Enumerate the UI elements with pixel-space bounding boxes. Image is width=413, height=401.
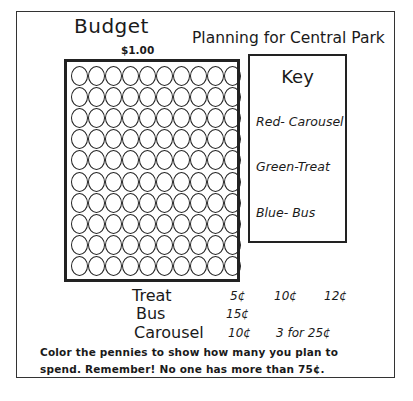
penny-circle[interactable] <box>71 235 88 255</box>
penny-circle[interactable] <box>207 87 224 107</box>
penny-circle[interactable] <box>190 129 207 149</box>
penny-circle[interactable] <box>88 256 105 276</box>
penny-circle[interactable] <box>139 193 156 213</box>
penny-circle[interactable] <box>224 108 241 128</box>
penny-circle[interactable] <box>105 256 122 276</box>
penny-circle[interactable] <box>224 235 241 255</box>
penny-circle[interactable] <box>207 129 224 149</box>
penny-circle[interactable] <box>156 129 173 149</box>
penny-circle[interactable] <box>207 150 224 170</box>
penny-circle[interactable] <box>122 193 139 213</box>
penny-circle[interactable] <box>156 150 173 170</box>
penny-circle[interactable] <box>71 129 88 149</box>
penny-circle[interactable] <box>139 108 156 128</box>
penny-circle[interactable] <box>207 108 224 128</box>
penny-circle[interactable] <box>122 150 139 170</box>
penny-circle[interactable] <box>156 172 173 192</box>
penny-circle[interactable] <box>88 129 105 149</box>
penny-circle[interactable] <box>173 256 190 276</box>
penny-circle[interactable] <box>105 193 122 213</box>
penny-circle[interactable] <box>190 66 207 86</box>
penny-circle[interactable] <box>156 235 173 255</box>
penny-circle[interactable] <box>156 256 173 276</box>
penny-circle[interactable] <box>139 66 156 86</box>
penny-circle[interactable] <box>190 256 207 276</box>
penny-circle[interactable] <box>71 193 88 213</box>
penny-circle[interactable] <box>122 256 139 276</box>
penny-circle[interactable] <box>156 66 173 86</box>
penny-circle[interactable] <box>71 108 88 128</box>
penny-circle[interactable] <box>190 150 207 170</box>
penny-circle[interactable] <box>122 235 139 255</box>
penny-circle[interactable] <box>88 172 105 192</box>
penny-circle[interactable] <box>122 129 139 149</box>
penny-circle[interactable] <box>190 235 207 255</box>
penny-circle[interactable] <box>224 172 241 192</box>
penny-circle[interactable] <box>105 108 122 128</box>
penny-circle[interactable] <box>122 66 139 86</box>
penny-circle[interactable] <box>207 235 224 255</box>
penny-circle[interactable] <box>71 172 88 192</box>
penny-circle[interactable] <box>156 87 173 107</box>
penny-circle[interactable] <box>173 87 190 107</box>
penny-circle[interactable] <box>71 256 88 276</box>
penny-circle[interactable] <box>88 235 105 255</box>
penny-circle[interactable] <box>122 214 139 234</box>
penny-circle[interactable] <box>122 87 139 107</box>
penny-circle[interactable] <box>71 87 88 107</box>
penny-circle[interactable] <box>207 66 224 86</box>
penny-circle[interactable] <box>156 193 173 213</box>
penny-circle[interactable] <box>190 193 207 213</box>
penny-circle[interactable] <box>88 66 105 86</box>
penny-circle[interactable] <box>173 108 190 128</box>
penny-circle[interactable] <box>173 172 190 192</box>
penny-circle[interactable] <box>173 193 190 213</box>
penny-circle[interactable] <box>156 214 173 234</box>
penny-circle[interactable] <box>190 87 207 107</box>
penny-circle[interactable] <box>224 129 241 149</box>
penny-circle[interactable] <box>224 66 241 86</box>
penny-circle[interactable] <box>88 193 105 213</box>
penny-circle[interactable] <box>207 172 224 192</box>
penny-circle[interactable] <box>71 214 88 234</box>
penny-circle[interactable] <box>207 214 224 234</box>
penny-circle[interactable] <box>224 214 241 234</box>
penny-circle[interactable] <box>139 172 156 192</box>
penny-circle[interactable] <box>224 256 241 276</box>
penny-circle[interactable] <box>207 193 224 213</box>
penny-circle[interactable] <box>88 150 105 170</box>
penny-circle[interactable] <box>139 150 156 170</box>
penny-circle[interactable] <box>105 66 122 86</box>
penny-circle[interactable] <box>207 256 224 276</box>
penny-circle[interactable] <box>139 214 156 234</box>
penny-circle[interactable] <box>71 66 88 86</box>
penny-circle[interactable] <box>156 108 173 128</box>
penny-circle[interactable] <box>224 150 241 170</box>
penny-circle[interactable] <box>88 108 105 128</box>
penny-circle[interactable] <box>190 214 207 234</box>
penny-circle[interactable] <box>122 172 139 192</box>
penny-circle[interactable] <box>190 172 207 192</box>
penny-circle[interactable] <box>105 150 122 170</box>
penny-circle[interactable] <box>173 214 190 234</box>
penny-circle[interactable] <box>173 235 190 255</box>
penny-circle[interactable] <box>71 150 88 170</box>
penny-circle[interactable] <box>105 87 122 107</box>
penny-circle[interactable] <box>105 129 122 149</box>
penny-circle[interactable] <box>173 129 190 149</box>
penny-circle[interactable] <box>173 66 190 86</box>
penny-circle[interactable] <box>88 214 105 234</box>
penny-circle[interactable] <box>224 193 241 213</box>
penny-circle[interactable] <box>122 108 139 128</box>
penny-circle[interactable] <box>105 235 122 255</box>
penny-circle[interactable] <box>173 150 190 170</box>
penny-circle[interactable] <box>139 256 156 276</box>
penny-circle[interactable] <box>139 87 156 107</box>
penny-circle[interactable] <box>139 129 156 149</box>
penny-circle[interactable] <box>105 214 122 234</box>
penny-circle[interactable] <box>105 172 122 192</box>
penny-circle[interactable] <box>190 108 207 128</box>
penny-circle[interactable] <box>88 87 105 107</box>
penny-circle[interactable] <box>139 235 156 255</box>
penny-circle[interactable] <box>224 87 241 107</box>
